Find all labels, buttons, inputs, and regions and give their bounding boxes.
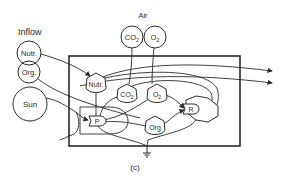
air-o2-label: O2 [151,33,160,43]
inflow-org-label: Org. [22,68,37,77]
loop-org-to-r [164,110,184,124]
process-producer: P [89,116,106,126]
svg-text:P: P [95,118,100,125]
outflow-upper [100,65,272,78]
storage-o2: O2 [147,84,167,103]
air-label: Air [138,11,148,20]
inflow-label: Inflow [18,27,42,37]
inflow-nutr-flow [41,54,90,76]
process-respiration: R [183,104,199,114]
outflow-lower [80,77,272,86]
air-co2-label: CO2 [125,33,139,43]
loop-p-to-sink [98,126,147,146]
storage-nutr: Nutr. [86,73,106,93]
inflow-nutr-label: Nutr. [21,49,37,58]
storage-org: Org [145,116,165,135]
sun-label: Sun [23,100,37,109]
svg-text:Nutr.: Nutr. [89,81,104,88]
svg-text:Org: Org [149,124,161,132]
svg-text:R: R [188,106,193,113]
loop-p-to-org [102,121,146,126]
storage-co2: CO2 [117,84,137,103]
heat-sink-icon [143,146,151,157]
figure-caption: (c) [130,163,140,172]
sun-flow [46,98,88,120]
energy-systems-diagram: Inflow Nutr. Org. Sun Air CO2 O2 Nutr. C… [0,0,285,178]
